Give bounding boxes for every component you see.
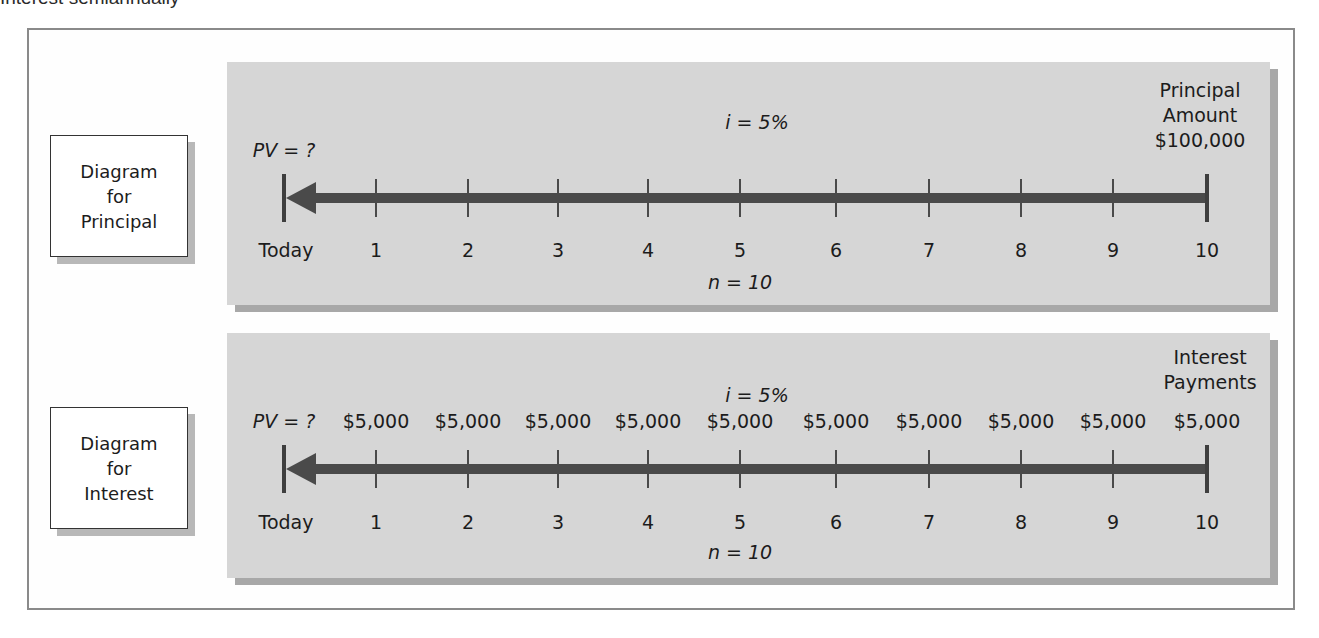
period-label: 2 xyxy=(462,513,474,532)
tick-mark xyxy=(1112,179,1114,217)
interest-diagram-label: Diagram for Interest xyxy=(50,407,188,529)
arrow-left-icon xyxy=(286,182,316,214)
period-label: 9 xyxy=(1107,513,1119,532)
payment-amount: $5,000 xyxy=(343,412,409,431)
tick-mark xyxy=(467,179,469,217)
period-label: 7 xyxy=(923,241,935,260)
tick-mark xyxy=(928,450,930,488)
interest-rate-label: i = 5% xyxy=(725,113,788,132)
period-label: 10 xyxy=(1195,513,1219,532)
tick-mark xyxy=(282,174,286,222)
period-label: 8 xyxy=(1015,241,1027,260)
tick-mark xyxy=(282,445,286,493)
periods-label: n = 10 xyxy=(708,543,772,562)
label-line: Principal xyxy=(81,209,158,234)
period-label: 4 xyxy=(642,241,654,260)
payment-amount: $5,000 xyxy=(988,412,1054,431)
payment-amount: $5,000 xyxy=(1174,412,1240,431)
tick-mark xyxy=(835,179,837,217)
payment-amount: $5,000 xyxy=(803,412,869,431)
period-label: 2 xyxy=(462,241,474,260)
interest-payments-label: InterestPayments xyxy=(1150,345,1270,395)
payment-amount: $5,000 xyxy=(707,412,773,431)
timeline-arrow-shaft xyxy=(300,193,1207,203)
tick-mark xyxy=(1020,179,1022,217)
label-line: for xyxy=(107,184,132,209)
tick-mark xyxy=(739,179,741,217)
timeline-arrow-shaft xyxy=(300,464,1207,474)
tick-mark xyxy=(1020,450,1022,488)
label-line: Diagram xyxy=(80,431,157,456)
period-label: 6 xyxy=(830,241,842,260)
period-label: 1 xyxy=(370,513,382,532)
today-label: Today xyxy=(259,241,314,260)
arrow-left-icon xyxy=(286,453,316,485)
payment-amount: $5,000 xyxy=(525,412,591,431)
tick-mark xyxy=(739,450,741,488)
period-label: 10 xyxy=(1195,241,1219,260)
right-label-line: Amount xyxy=(1140,103,1260,128)
section-heading: Interest semiannually xyxy=(0,0,180,9)
right-label-line: Interest xyxy=(1150,345,1270,370)
tick-mark xyxy=(1205,174,1209,222)
tick-mark xyxy=(647,450,649,488)
payment-amount: $5,000 xyxy=(896,412,962,431)
payment-amount: $5,000 xyxy=(615,412,681,431)
tick-mark xyxy=(467,450,469,488)
tick-mark xyxy=(928,179,930,217)
tick-mark xyxy=(1205,445,1209,493)
period-label: 9 xyxy=(1107,241,1119,260)
tick-mark xyxy=(557,179,559,217)
period-label: 5 xyxy=(734,241,746,260)
label-line: Interest xyxy=(84,481,153,506)
tick-mark xyxy=(647,179,649,217)
right-label-line: Payments xyxy=(1150,370,1270,395)
period-label: 3 xyxy=(552,513,564,532)
principal-diagram-label: Diagram for Principal xyxy=(50,135,188,257)
payment-amount: $5,000 xyxy=(435,412,501,431)
present-value-label: PV = ? xyxy=(253,412,316,431)
present-value-label: PV = ? xyxy=(253,141,316,160)
tick-mark xyxy=(557,450,559,488)
period-label: 5 xyxy=(734,513,746,532)
tick-mark xyxy=(835,450,837,488)
period-label: 3 xyxy=(552,241,564,260)
label-line: for xyxy=(107,456,132,481)
right-label-line: Principal xyxy=(1140,78,1260,103)
period-label: 8 xyxy=(1015,513,1027,532)
period-label: 6 xyxy=(830,513,842,532)
label-line: Diagram xyxy=(80,159,157,184)
today-label: Today xyxy=(259,513,314,532)
tick-mark xyxy=(375,450,377,488)
period-label: 1 xyxy=(370,241,382,260)
period-label: 7 xyxy=(923,513,935,532)
tick-mark xyxy=(1112,450,1114,488)
right-label-line: $100,000 xyxy=(1140,128,1260,153)
period-label: 4 xyxy=(642,513,654,532)
periods-label: n = 10 xyxy=(708,273,772,292)
principal-amount-label: PrincipalAmount$100,000 xyxy=(1140,78,1260,153)
tick-mark xyxy=(375,179,377,217)
payment-amount: $5,000 xyxy=(1080,412,1146,431)
interest-rate-label: i = 5% xyxy=(725,386,788,405)
